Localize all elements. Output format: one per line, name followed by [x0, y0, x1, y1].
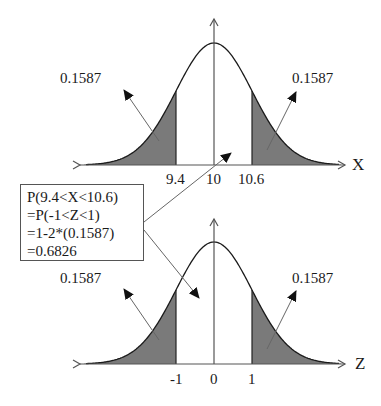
callout-line-1: P(9.4<X<10.6) — [27, 188, 143, 206]
top-right-tail-label: 0.1587 — [292, 71, 333, 86]
bottom-tick-label-right: 1 — [248, 372, 256, 387]
callout-line-3: =1-2*(0.1587) — [27, 224, 143, 242]
probability-callout-box: P(9.4<X<10.6) =P(-1<Z<1) =1-2*(0.1587) =… — [20, 184, 144, 261]
x-axis-label: X — [352, 157, 364, 172]
normal-distribution-diagram: 0.1587 0.1587 9.4 10 10.6 X P(9.4<X<10.6… — [0, 0, 381, 406]
bottom-right-tail-label: 0.1587 — [292, 271, 333, 286]
top-left-tail-pointer — [124, 90, 159, 141]
top-bell-curve — [86, 43, 339, 165]
z-axis-label: Z — [355, 356, 365, 371]
top-tick-label-left: 9.4 — [166, 172, 185, 187]
bottom-tick-label-left: -1 — [170, 372, 183, 387]
bottom-left-tail-label: 0.1587 — [60, 271, 101, 286]
callout-line-4: =0.6826 — [27, 242, 143, 260]
top-tick-label-center: 10 — [206, 172, 221, 187]
top-panel-x-distribution — [80, 19, 345, 165]
callout-line-2: =P(-1<Z<1) — [27, 206, 143, 224]
top-left-tail-label: 0.1587 — [60, 71, 101, 86]
bottom-tick-label-center: 0 — [210, 372, 218, 387]
top-tick-label-right: 10.6 — [238, 172, 264, 187]
bottom-left-tail-pointer — [124, 289, 159, 340]
